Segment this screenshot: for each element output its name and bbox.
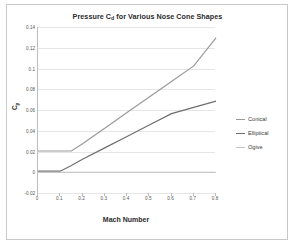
y-tick-label: 0.1: [5, 66, 35, 71]
legend-label: Conical: [248, 116, 267, 122]
legend-swatch-icon: [236, 147, 245, 148]
y-axis-tick-labels: 0.140.120.10.080.060.040.020-0.02: [2, 27, 35, 193]
chart-legend: ConicalEllipticalOgive: [236, 112, 291, 154]
chart-title-rest: for Various Nose Cone Shapes: [114, 12, 222, 21]
x-tick-label: 0.2: [72, 196, 92, 201]
x-tick-label: 0.3: [94, 196, 114, 201]
chart-figure: Pressure Cd for Various Nose Cone Shapes…: [0, 0, 295, 246]
x-axis-label: Mach Number: [37, 216, 215, 223]
plot-area: [37, 27, 215, 193]
x-tick-label: 0.8: [205, 196, 225, 201]
legend-swatch-icon: [236, 119, 245, 120]
y-tick-label: 0.06: [5, 108, 35, 113]
x-tick-label: 0.7: [183, 196, 203, 201]
x-tick-label: 0.5: [138, 196, 158, 201]
series-line-elliptical: [38, 101, 216, 171]
x-tick-label: 0.1: [49, 196, 69, 201]
legend-swatch-icon: [236, 133, 245, 134]
plot-series-svg: [38, 27, 216, 193]
series-line-conical: [38, 38, 216, 151]
legend-item-ogive[interactable]: Ogive: [236, 140, 291, 154]
chart-title: Pressure Cd for Various Nose Cone Shapes: [0, 12, 295, 21]
y-tick-label: 0.08: [5, 87, 35, 92]
chart-title-main: Pressure C: [73, 12, 111, 21]
legend-label: Elliptical: [248, 130, 269, 136]
y-tick-label: 0.04: [5, 128, 35, 133]
y-tick-label: 0.02: [5, 149, 35, 154]
legend-label: Ogive: [248, 144, 263, 150]
x-tick-label: 0: [27, 196, 47, 201]
y-tick-label: 0: [5, 170, 35, 175]
y-tick-label: 0.14: [5, 25, 35, 30]
legend-item-elliptical[interactable]: Elliptical: [236, 126, 291, 140]
x-tick-label: 0.4: [116, 196, 136, 201]
y-tick-label: -0.02: [5, 191, 35, 196]
y-tick-label: 0.12: [5, 45, 35, 50]
legend-item-conical[interactable]: Conical: [236, 112, 291, 126]
x-tick-label: 0.6: [161, 196, 181, 201]
x-axis-tick-labels: 00.10.20.30.40.50.60.70.8: [37, 196, 215, 206]
